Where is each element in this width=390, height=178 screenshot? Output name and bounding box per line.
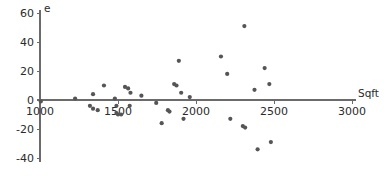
y-axis: -40-200204060 xyxy=(16,7,40,165)
data-point xyxy=(242,24,246,28)
data-point xyxy=(228,117,232,121)
data-point xyxy=(179,91,183,95)
data-point xyxy=(252,88,256,92)
data-point xyxy=(73,96,77,100)
data-point xyxy=(128,104,132,108)
data-point xyxy=(181,117,185,121)
data-point xyxy=(256,147,260,151)
plot-area: -40-200204060 10001500200025003000 e Sqf… xyxy=(0,0,390,178)
data-point xyxy=(219,54,223,58)
y-tick-label: 60 xyxy=(20,7,34,20)
x-tick-label: 2500 xyxy=(260,105,288,118)
data-point xyxy=(91,92,95,96)
data-point xyxy=(114,104,118,108)
data-point xyxy=(96,108,100,112)
data-point xyxy=(269,140,273,144)
data-point xyxy=(177,59,181,63)
x-axis: 10001500200025003000 xyxy=(26,100,366,118)
y-axis-title: e xyxy=(44,2,50,14)
data-point xyxy=(154,101,158,105)
data-point xyxy=(128,91,132,95)
y-tick-label: 40 xyxy=(20,36,34,49)
x-tick-label: 3000 xyxy=(338,105,366,118)
residual-scatter-chart: -40-200204060 10001500200025003000 e Sqf… xyxy=(0,0,390,178)
data-point xyxy=(91,107,95,111)
x-axis-title: Sqft xyxy=(358,87,379,99)
data-points-layer xyxy=(39,24,273,151)
data-point xyxy=(119,112,123,116)
data-point xyxy=(160,121,164,125)
x-tick-label: 1000 xyxy=(26,105,54,118)
data-point xyxy=(126,86,130,90)
data-point xyxy=(243,125,247,129)
data-point xyxy=(188,95,192,99)
y-tick-label: -40 xyxy=(16,152,34,165)
data-point xyxy=(102,83,106,87)
data-point xyxy=(263,66,267,70)
data-point xyxy=(88,104,92,108)
data-point xyxy=(174,83,178,87)
data-point xyxy=(267,82,271,86)
x-tick-label: 2000 xyxy=(182,105,210,118)
y-tick-label: -20 xyxy=(16,123,34,136)
data-point xyxy=(39,99,43,103)
y-tick-label: 20 xyxy=(20,65,34,78)
data-point xyxy=(113,96,117,100)
data-point xyxy=(167,110,171,114)
data-point xyxy=(139,94,143,98)
data-point xyxy=(225,72,229,76)
